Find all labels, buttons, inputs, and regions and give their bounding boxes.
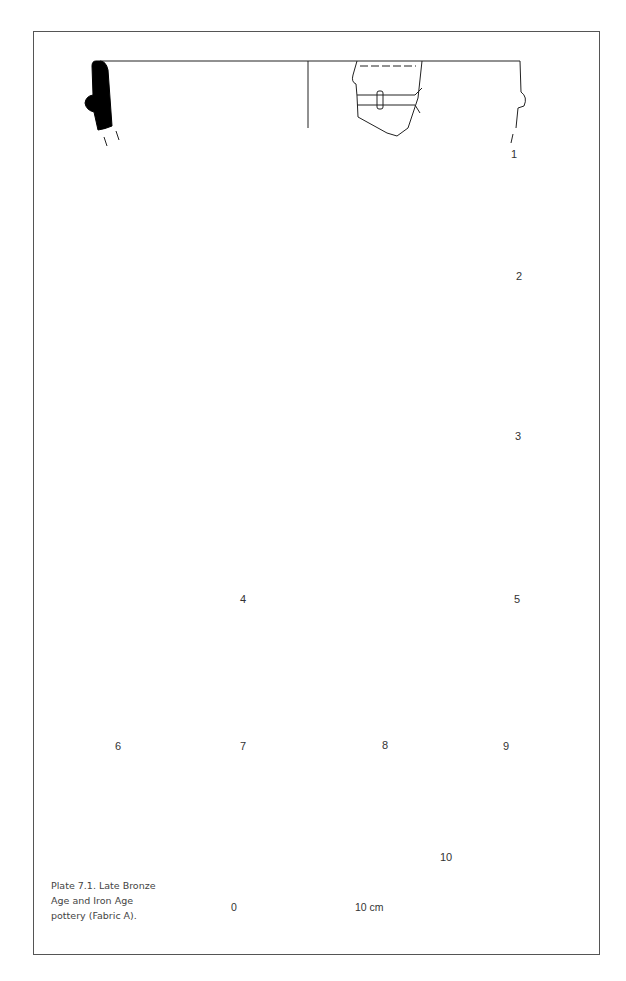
figure-number-7: 7 xyxy=(240,740,246,752)
figure-number-8: 8 xyxy=(382,739,388,751)
figure-number-1: 1 xyxy=(511,148,517,160)
sherd-1-profile xyxy=(85,61,112,130)
caption-line-3: pottery (Fabric A). xyxy=(51,908,171,923)
figure-number-4: 4 xyxy=(240,593,246,605)
scale-start-label: 0 xyxy=(231,901,237,913)
figure-number-10: 10 xyxy=(440,851,452,863)
figure-number-3: 3 xyxy=(515,430,521,442)
figure-number-2: 2 xyxy=(516,270,522,282)
plate-caption: Plate 7.1. Late Bronze Age and Iron Age … xyxy=(51,878,171,923)
sherd-1-drawing xyxy=(85,61,525,146)
caption-line-1: Plate 7.1. Late Bronze xyxy=(51,878,171,893)
scale-end-label: 10 cm xyxy=(355,901,384,913)
figure-number-5: 5 xyxy=(514,593,520,605)
figure-number-9: 9 xyxy=(503,740,509,752)
caption-line-2: Age and Iron Age xyxy=(51,893,171,908)
pottery-drawings xyxy=(0,0,626,981)
figure-number-6: 6 xyxy=(115,740,121,752)
